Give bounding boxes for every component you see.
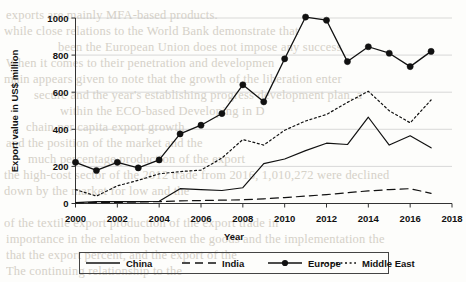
y-tick-label: 400 xyxy=(53,124,69,135)
data-point xyxy=(344,58,350,64)
data-point xyxy=(135,165,141,171)
data-point xyxy=(156,157,162,163)
data-point xyxy=(240,82,246,88)
data-point xyxy=(114,159,120,165)
x-tick-label: 2000 xyxy=(65,213,86,224)
data-point xyxy=(261,99,267,105)
series-middle-east xyxy=(76,91,432,196)
data-point xyxy=(177,131,183,137)
data-point xyxy=(219,110,225,116)
legend-entries: ChinaIndiaEuropeMiddle East xyxy=(86,258,416,269)
legend-marker xyxy=(282,260,288,266)
x-tick-labels: 2000200220042006200820102012201420162018 xyxy=(65,213,463,224)
y-tick-marks xyxy=(72,18,76,204)
data-point xyxy=(302,14,308,20)
series-line xyxy=(76,189,432,203)
y-axis-title: Export value in US$ million xyxy=(9,50,20,173)
chart-legend: ChinaIndiaEuropeMiddle East xyxy=(80,253,416,274)
y-tick-label: 800 xyxy=(53,50,69,61)
y-tick-label: 600 xyxy=(53,87,69,98)
data-point xyxy=(198,122,204,128)
legend-item-europe[interactable]: Europe xyxy=(268,258,341,269)
series-line xyxy=(76,17,432,170)
series-line xyxy=(76,91,432,196)
chart-svg: 02004006008001000 2000200220042006200820… xyxy=(0,0,466,282)
x-tick-label: 2018 xyxy=(441,213,462,224)
data-point xyxy=(72,159,78,165)
legend-item-china[interactable]: China xyxy=(86,258,153,269)
data-point xyxy=(386,50,392,56)
data-point xyxy=(282,56,288,62)
data-point xyxy=(365,44,371,50)
legend-label: Middle East xyxy=(362,258,416,269)
y-tick-label: 200 xyxy=(53,161,69,172)
y-gridlines xyxy=(76,18,453,204)
x-tick-label: 2008 xyxy=(232,213,253,224)
x-tick-label: 2004 xyxy=(149,213,171,224)
x-tick-label: 2010 xyxy=(274,213,295,224)
x-tick-label: 2012 xyxy=(316,213,337,224)
legend-label: China xyxy=(126,258,153,269)
series-india xyxy=(76,189,432,203)
chart-page: exports are mainly MFA-based products. w… xyxy=(0,0,466,282)
legend-label: India xyxy=(222,258,245,269)
series-layer xyxy=(72,14,434,203)
line-chart-figure: 02004006008001000 2000200220042006200820… xyxy=(0,0,466,282)
x-tick-label: 2014 xyxy=(358,213,380,224)
x-axis-title: Year xyxy=(224,231,244,242)
y-tick-label: 1000 xyxy=(47,13,68,24)
x-tick-label: 2002 xyxy=(107,213,128,224)
x-tick-label: 2006 xyxy=(190,213,211,224)
series-europe xyxy=(72,14,434,174)
legend-item-india[interactable]: India xyxy=(182,258,245,269)
y-tick-labels: 02004006008001000 xyxy=(47,13,68,210)
y-tick-label: 0 xyxy=(63,198,68,209)
data-point xyxy=(323,17,329,23)
data-point xyxy=(407,64,413,70)
x-tick-marks xyxy=(76,204,453,208)
data-point xyxy=(428,48,434,54)
data-point xyxy=(93,167,99,173)
x-tick-label: 2016 xyxy=(400,213,421,224)
